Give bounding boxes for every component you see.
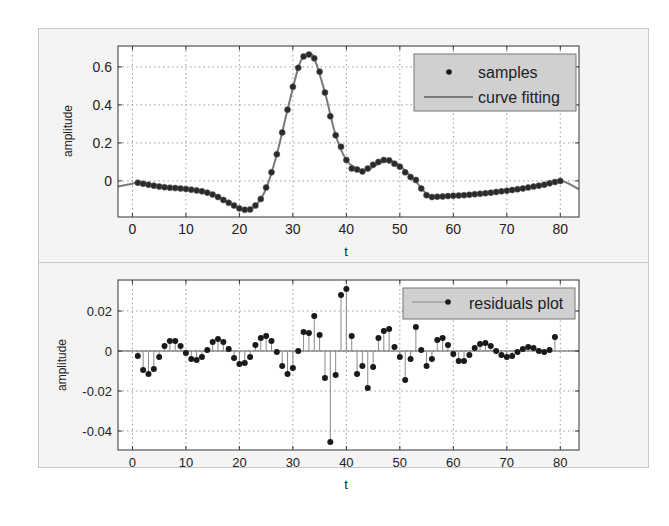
sample-point (343, 157, 349, 163)
residual-point (178, 343, 184, 349)
residual-point (242, 360, 248, 366)
residual-point (536, 348, 542, 354)
x-tick-label: 70 (500, 455, 514, 470)
sample-point (258, 196, 264, 202)
residual-point (408, 356, 414, 362)
sample-point (194, 187, 200, 193)
residual-point (247, 354, 253, 360)
sample-point (504, 188, 510, 194)
residual-point (268, 338, 274, 344)
residual-point (167, 338, 173, 344)
x-tick-label: 30 (285, 221, 301, 237)
residual-point (391, 344, 397, 350)
residual-point (450, 351, 456, 357)
sample-point (541, 182, 547, 188)
bottom-axes: 01020304050607080-0.04-0.0200.02 residua… (55, 280, 579, 492)
stem-marker-icon (445, 299, 451, 305)
bottom-y-axis-label: amplitude (55, 339, 69, 391)
residual-point (151, 366, 157, 372)
residual-point (135, 353, 141, 359)
residual-point (418, 347, 424, 353)
x-tick-label: 40 (339, 221, 355, 237)
y-tick-label: 0.2 (93, 135, 113, 151)
x-tick-label: 50 (393, 455, 407, 470)
x-tick-label: 50 (392, 221, 408, 237)
residual-point (220, 339, 226, 345)
sample-point (359, 168, 365, 174)
sample-point (333, 132, 339, 138)
y-tick-label: 0 (105, 344, 112, 359)
sample-point (279, 129, 285, 135)
residual-point (402, 377, 408, 383)
residual-point (327, 439, 333, 445)
residual-point (183, 350, 189, 356)
x-tick-label: 0 (129, 221, 137, 237)
residual-point (514, 349, 520, 355)
sample-point (322, 90, 328, 96)
bottom-x-axis-label: t (344, 477, 348, 492)
residual-point (493, 348, 499, 354)
y-tick-label: 0.4 (93, 97, 113, 113)
residual-point (172, 338, 178, 344)
x-tick-label: 10 (178, 221, 194, 237)
sample-point (220, 197, 226, 203)
residual-point (445, 342, 451, 348)
residual-point (279, 363, 285, 369)
sample-point (386, 157, 392, 163)
sample-point (327, 113, 333, 119)
residual-point (359, 363, 365, 369)
sample-point (226, 200, 232, 206)
residual-point (456, 358, 462, 364)
x-tick-label: 20 (232, 221, 248, 237)
sample-point (215, 194, 221, 200)
y-tick-label: 0.02 (87, 304, 112, 319)
sample-point (365, 166, 371, 172)
top-y-axis-label: amplitude (61, 105, 75, 157)
residual-point (525, 344, 531, 350)
sample-point (274, 151, 280, 157)
sample-point (306, 52, 312, 58)
sample-point (188, 187, 194, 193)
x-tick-label: 10 (179, 455, 193, 470)
sample-point (488, 190, 494, 196)
x-tick-label: 60 (446, 221, 462, 237)
residual-point (295, 348, 301, 354)
residual-point (482, 340, 488, 346)
x-tick-label: 30 (286, 455, 300, 470)
samples-marker-icon (446, 69, 452, 75)
figure: 0102030405060708000.20.40.6 samples curv… (0, 0, 669, 526)
residual-point (301, 329, 307, 335)
x-tick-label: 40 (339, 455, 353, 470)
y-tick-label: -0.04 (82, 424, 112, 439)
residual-point (204, 347, 210, 353)
sample-point (317, 69, 323, 75)
residual-point (509, 353, 515, 359)
y-tick-label: 0.6 (93, 59, 113, 75)
residual-point (188, 356, 194, 362)
sample-point (140, 181, 146, 187)
sample-point (370, 162, 376, 168)
residual-point (365, 385, 371, 391)
residual-point (210, 339, 216, 345)
residual-point (370, 364, 376, 370)
residual-point (520, 346, 526, 352)
residual-point (531, 345, 537, 351)
x-tick-label: 80 (553, 455, 567, 470)
residual-point (231, 355, 237, 361)
residual-point (306, 330, 312, 336)
sample-point (514, 186, 520, 192)
sample-point (311, 55, 317, 61)
sample-point (547, 180, 553, 186)
residual-point (333, 372, 339, 378)
sample-point (349, 166, 355, 172)
sample-point (536, 183, 542, 189)
residual-point (552, 334, 558, 340)
sample-point (247, 206, 253, 212)
residual-point (354, 371, 360, 377)
residual-point (258, 335, 264, 341)
sample-point (231, 203, 237, 209)
residual-point (226, 346, 232, 352)
sample-point (199, 188, 205, 194)
sample-point (552, 179, 558, 185)
residual-point (466, 352, 472, 358)
